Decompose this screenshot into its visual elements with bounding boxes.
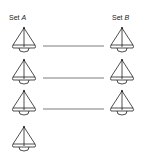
- sailboat-icon: [13, 27, 36, 52]
- sailboat-icon: [111, 59, 134, 84]
- one-to-one-correspondence-diagram: [0, 0, 143, 166]
- sailboat-icon: [13, 126, 36, 151]
- correspondence-lines: [43, 46, 104, 109]
- sailboat-icon: [111, 27, 134, 52]
- set-b-boats: [111, 27, 134, 115]
- sailboat-icon: [13, 90, 36, 115]
- set-a-boats: [13, 27, 36, 151]
- sailboat-icon: [13, 59, 36, 84]
- sailboat-icon: [111, 90, 134, 115]
